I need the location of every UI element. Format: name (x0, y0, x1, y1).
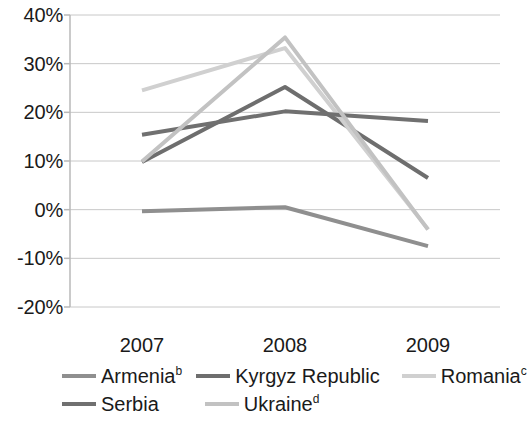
y-axis-tick-label: 30% (0, 54, 63, 74)
x-axis-tick-label: 2007 (87, 333, 197, 357)
series-line-kyrgyz-republic (142, 87, 428, 178)
plot-area: 40%30%20%10%0%-10%-20% (0, 0, 510, 330)
series-line-ukraine (142, 37, 428, 229)
legend-label-superscript: d (313, 392, 320, 406)
plot-svg (0, 0, 510, 330)
gridlines (70, 15, 500, 307)
legend-row-top: ArmeniabKyrgyz RepublicRomaniac (0, 362, 531, 390)
series-line-armenia (142, 207, 428, 246)
y-axis-tick-label: 40% (0, 5, 63, 25)
legend-label: Armeniab (101, 365, 182, 387)
legend-item-armenia[interactable]: Armeniab (62, 365, 182, 387)
x-axis-tick-label: 2008 (230, 333, 340, 357)
legend-label: Serbia (101, 393, 159, 415)
y-axis-tick-label: -10% (0, 248, 63, 268)
legend-swatch (62, 402, 96, 406)
legend-label: Kyrgyz Republic (235, 365, 380, 387)
legend-row-bottom: SerbiaUkrained (0, 390, 531, 418)
legend-item-serbia[interactable]: Serbia (62, 393, 159, 415)
legend-item-romania[interactable]: Romaniac (402, 365, 527, 387)
x-axis-tick-label: 2009 (373, 333, 483, 357)
y-axis-tick-label: 0% (0, 200, 63, 220)
legend-label-superscript: b (175, 364, 182, 378)
legend-label-superscript: c (521, 364, 527, 378)
legend-swatch (196, 374, 230, 378)
y-axis-tick-label: 20% (0, 102, 63, 122)
axis-lines (64, 15, 70, 307)
legend-item-kyrgyz-republic[interactable]: Kyrgyz Republic (196, 365, 380, 387)
legend-label: Ukrained (244, 393, 320, 415)
series-lines (142, 37, 428, 246)
legend-label: Romaniac (441, 365, 527, 387)
chart-legend: ArmeniabKyrgyz RepublicRomaniac SerbiaUk… (0, 360, 510, 424)
y-axis-tick-label: 10% (0, 151, 63, 171)
legend-swatch (402, 374, 436, 378)
legend-swatch (205, 402, 239, 406)
legend-swatch (62, 374, 96, 378)
y-axis-tick-label: -20% (0, 297, 63, 317)
legend-item-ukraine[interactable]: Ukrained (205, 393, 320, 415)
x-axis-tick-labels: 200720082009 (0, 333, 510, 361)
